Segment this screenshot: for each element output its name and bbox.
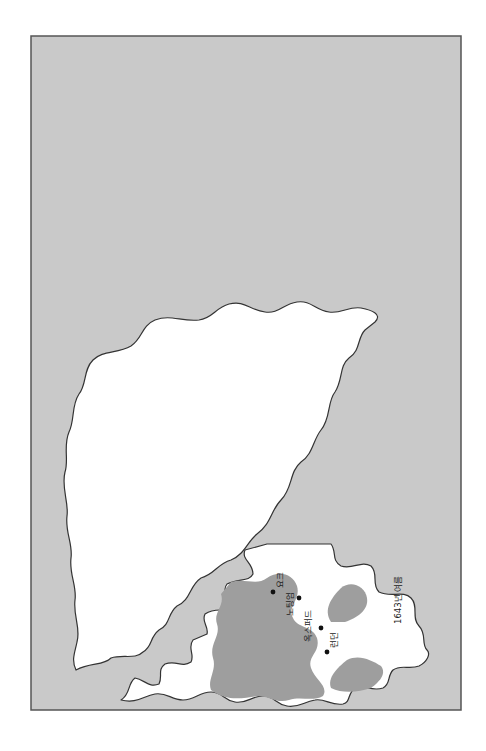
city-nottingham: 노팅엄 (285, 592, 295, 616)
civil-war-figure: 런던 옥스퍼드 노팅엄 요크 1643년 여름 (0, 0, 486, 751)
city-oxford: 옥스퍼드 (303, 610, 313, 642)
season-label-1: 1643년 여름 (393, 576, 403, 624)
city-york: 요크 (275, 572, 285, 588)
city-london: 런던 (329, 632, 339, 648)
